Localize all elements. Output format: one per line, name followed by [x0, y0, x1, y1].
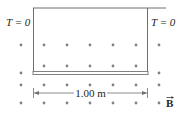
svg-text:B: B	[166, 97, 174, 109]
field-vector-label: B	[166, 96, 174, 109]
conducting-rod	[33, 72, 148, 75]
magnetic-rod-diagram: T = 0 T = 0 1.00 m B	[0, 0, 186, 125]
length-label: 1.00 m	[75, 87, 106, 99]
right-tension-label: T = 0	[151, 16, 176, 28]
left-tension-label: T = 0	[6, 16, 31, 28]
